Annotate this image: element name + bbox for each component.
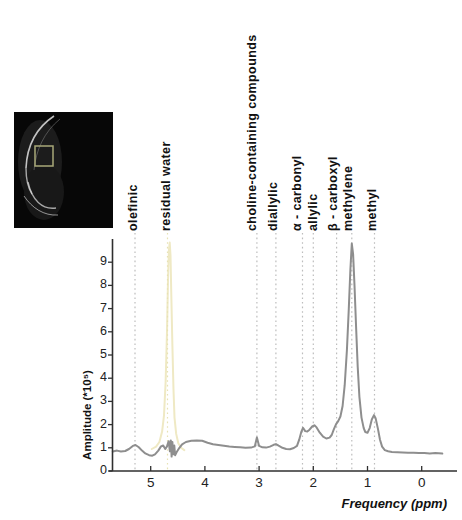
x-axis-title: Frequency (ppm) <box>297 496 447 511</box>
y-tick-label-7: 7 <box>86 301 107 315</box>
peak-label-diallylic: diallylic <box>266 182 280 231</box>
x-tick-label-1: 1 <box>357 475 379 490</box>
y-tick-label-6: 6 <box>86 324 107 338</box>
y-tick-label-9: 9 <box>86 254 107 268</box>
y-tick-label-4: 4 <box>86 370 107 384</box>
peak-label-choline-containing-compounds: choline-containing compounds <box>245 34 259 231</box>
x-tick-label-3: 3 <box>248 475 270 490</box>
peak-label-alpha-carbonyl: α - carbonyl <box>290 155 304 231</box>
peak-label-residual-water: residual water <box>159 141 173 231</box>
peak-label-allylic: allylic <box>306 193 320 231</box>
y-tick-label-0: 0 <box>86 463 107 477</box>
y-tick-label-3: 3 <box>86 393 107 407</box>
y-tick-label-5: 5 <box>86 347 107 361</box>
plot-text-layer: Amplitude (*10⁵) Frequency (ppm) 5432100… <box>0 0 462 520</box>
x-tick-label-5: 5 <box>140 475 162 490</box>
figure-canvas: Amplitude (*10⁵) Frequency (ppm) 5432100… <box>0 0 462 520</box>
peak-label-beta-carboxyl: β - carboxyl <box>326 156 340 231</box>
x-tick-label-0: 0 <box>411 475 433 490</box>
peak-label-olefinic: olefinic <box>126 184 140 231</box>
peak-label-methylene: methylene <box>341 166 355 231</box>
y-tick-label-2: 2 <box>86 417 107 431</box>
y-tick-label-1: 1 <box>86 440 107 454</box>
peak-label-methyl: methyl <box>365 188 379 231</box>
x-tick-label-2: 2 <box>302 475 324 490</box>
x-tick-label-4: 4 <box>194 475 216 490</box>
y-tick-label-8: 8 <box>86 277 107 291</box>
